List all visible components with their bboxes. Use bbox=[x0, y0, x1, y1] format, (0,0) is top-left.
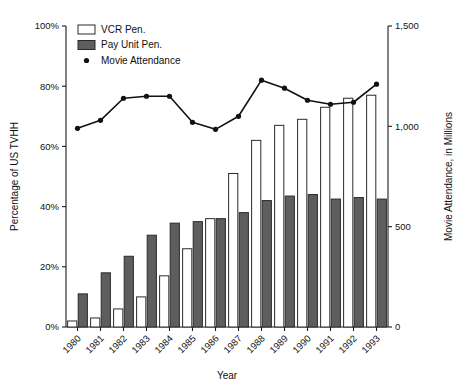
x-axis-title: Year bbox=[217, 370, 238, 381]
bar-vcr-pen bbox=[137, 297, 146, 327]
bar-pay-unit-pen bbox=[308, 195, 317, 327]
movie-attendance-point bbox=[259, 78, 264, 83]
x-axis-tick-label: 1984 bbox=[152, 333, 175, 356]
movie-attendance-point bbox=[282, 86, 287, 91]
legend-label: Pay Unit Pen. bbox=[101, 39, 162, 50]
x-axis-tick-label: 1985 bbox=[175, 333, 198, 356]
right-axis-tick-label: 1,500 bbox=[395, 20, 419, 31]
x-axis-tick-label: 1993 bbox=[359, 333, 382, 356]
right-axis-tick-label: 500 bbox=[395, 221, 411, 232]
left-axis-tick-label: 20% bbox=[40, 261, 60, 272]
right-axis-title: Movie Attendance, in Millions bbox=[443, 112, 454, 241]
bar-vcr-pen bbox=[298, 119, 307, 327]
bar-vcr-pen bbox=[275, 125, 284, 327]
bar-vcr-pen bbox=[367, 95, 376, 327]
legend-label: Movie Attendance bbox=[101, 55, 181, 66]
bar-vcr-pen bbox=[91, 318, 100, 327]
right-axis-tick-label: 0 bbox=[395, 321, 400, 332]
left-axis-tick-label: 60% bbox=[40, 141, 60, 152]
x-axis-tick-label: 1986 bbox=[198, 333, 221, 356]
left-axis-tick-label: 0% bbox=[45, 321, 59, 332]
left-axis-tick-label: 40% bbox=[40, 201, 60, 212]
bar-pay-unit-pen bbox=[124, 256, 133, 327]
legend-swatch-vcr-pen bbox=[78, 25, 95, 34]
bar-pay-unit-pen bbox=[101, 273, 110, 327]
bar-pay-unit-pen bbox=[285, 196, 294, 327]
bar-vcr-pen bbox=[321, 107, 330, 327]
x-axis-tick-label: 1980 bbox=[60, 333, 83, 356]
movie-attendance-point bbox=[190, 120, 195, 125]
bar-pay-unit-pen bbox=[78, 294, 87, 327]
x-axis-tick-label: 1987 bbox=[221, 333, 244, 356]
right-axis-tick-label: 1,000 bbox=[395, 121, 419, 132]
movie-attendance-point bbox=[328, 102, 333, 107]
left-axis-title: Percentage of US TVHH bbox=[9, 122, 20, 231]
legend-swatch-pay-unit-pen bbox=[78, 41, 95, 50]
bar-vcr-pen bbox=[252, 140, 261, 327]
movie-attendance-point bbox=[374, 82, 379, 87]
bar-pay-unit-pen bbox=[216, 219, 225, 327]
bar-vcr-pen bbox=[206, 219, 215, 327]
x-axis-tick-label: 1989 bbox=[267, 333, 290, 356]
movie-attendance-vcr-penetration-chart: 0%20%40%60%80%100%Percentage of US TVHH0… bbox=[0, 0, 470, 386]
movie-attendance-point bbox=[75, 126, 80, 131]
x-axis-tick-label: 1990 bbox=[290, 333, 313, 356]
x-axis-tick-label: 1983 bbox=[129, 333, 152, 356]
chart-figure: 0%20%40%60%80%100%Percentage of US TVHH0… bbox=[0, 0, 470, 386]
left-axis-tick-label: 80% bbox=[40, 81, 60, 92]
legend-marker-movie-attendance bbox=[84, 58, 89, 63]
movie-attendance-point bbox=[98, 118, 103, 123]
bar-vcr-pen bbox=[344, 98, 353, 327]
bar-vcr-pen bbox=[183, 249, 192, 327]
bar-pay-unit-pen bbox=[170, 223, 179, 327]
x-axis-tick-label: 1991 bbox=[313, 333, 336, 356]
movie-attendance-point bbox=[167, 94, 172, 99]
bar-vcr-pen bbox=[114, 309, 123, 327]
bar-vcr-pen bbox=[68, 321, 77, 327]
bar-vcr-pen bbox=[160, 276, 169, 327]
bar-pay-unit-pen bbox=[262, 201, 271, 327]
bar-pay-unit-pen bbox=[331, 199, 340, 327]
movie-attendance-point bbox=[121, 96, 126, 101]
left-axis-tick-label: 100% bbox=[35, 20, 60, 31]
bar-pay-unit-pen bbox=[377, 199, 386, 327]
bar-pay-unit-pen bbox=[239, 213, 248, 327]
x-axis-tick-label: 1981 bbox=[83, 333, 106, 356]
x-axis-tick-label: 1982 bbox=[106, 333, 129, 356]
x-axis-tick-label: 1992 bbox=[336, 333, 359, 356]
movie-attendance-point bbox=[236, 114, 241, 119]
movie-attendance-point bbox=[213, 127, 218, 132]
bar-pay-unit-pen bbox=[354, 198, 363, 327]
movie-attendance-point bbox=[351, 100, 356, 105]
x-axis-tick-label: 1988 bbox=[244, 333, 267, 356]
legend-label: VCR Pen. bbox=[101, 24, 145, 35]
bar-pay-unit-pen bbox=[147, 235, 156, 327]
movie-attendance-point bbox=[144, 94, 149, 99]
movie-attendance-point bbox=[305, 98, 310, 103]
bar-vcr-pen bbox=[229, 173, 238, 327]
bar-pay-unit-pen bbox=[193, 222, 202, 327]
